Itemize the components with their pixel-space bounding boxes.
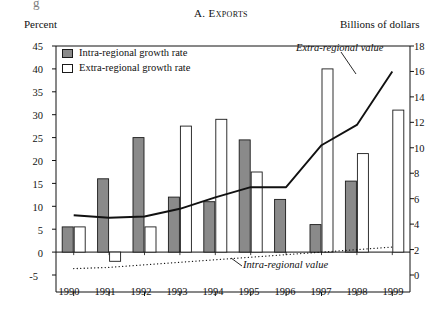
bar-intra-1991 — [98, 179, 109, 252]
bar-extra-1990 — [74, 227, 85, 252]
line-intra-regional-value — [74, 247, 393, 269]
bar-extra-1999 — [393, 110, 404, 252]
bar-group — [62, 69, 404, 261]
line-group — [74, 71, 393, 268]
line-extra-regional-value — [74, 71, 393, 217]
bar-intra-1992 — [133, 138, 144, 253]
bar-extra-1991 — [110, 252, 121, 261]
bar-intra-1998 — [345, 181, 356, 252]
bar-extra-1997 — [322, 69, 333, 252]
bar-intra-1993 — [168, 197, 179, 252]
bar-extra-1992 — [145, 227, 156, 252]
plot-area — [0, 0, 442, 319]
bar-intra-1990 — [62, 227, 73, 252]
bar-intra-1996 — [275, 199, 286, 252]
bar-extra-1995 — [251, 172, 262, 252]
bar-extra-1993 — [180, 126, 191, 252]
leader-extra-regional — [341, 52, 356, 74]
bar-intra-1995 — [239, 140, 250, 252]
bar-extra-1998 — [357, 154, 368, 253]
leader-intra-regional — [231, 258, 242, 266]
figure-panel-a-exports: g A. Exports Percent Billions of dollars… — [0, 0, 442, 319]
bar-intra-1997 — [310, 225, 321, 253]
bar-intra-1994 — [204, 202, 215, 252]
bar-extra-1994 — [216, 119, 227, 252]
